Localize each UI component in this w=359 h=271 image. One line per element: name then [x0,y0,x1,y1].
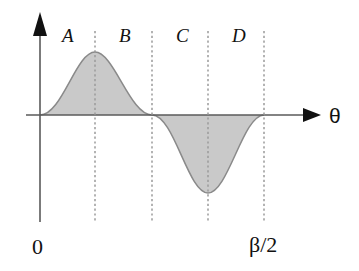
sine-wave-figure: A B C D 0 β/2 θ [0,0,359,271]
segment-label-b: B [119,26,131,45]
segment-label-c: C [176,26,189,45]
theta-axis-arrowhead [303,108,321,122]
theta-axis-label: θ [329,105,341,126]
segment-label-a: A [62,26,74,45]
x-origin-label: 0 [32,236,43,258]
x-end-label: β/2 [249,234,277,256]
segment-label-d: D [232,26,246,45]
shaded-area-positive-lobe [40,52,152,115]
vertical-axis-arrowhead [33,12,47,36]
